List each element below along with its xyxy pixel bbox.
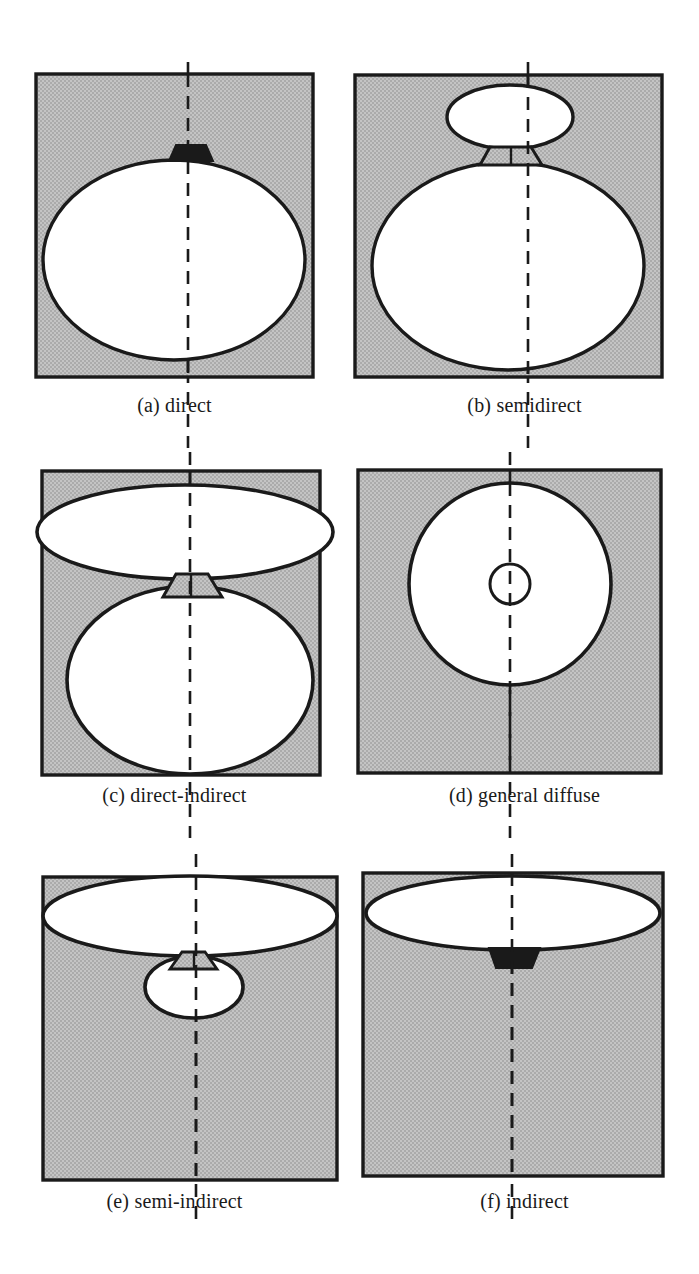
panel-d-caption: (d) general diffuse: [350, 784, 699, 807]
downward-light-ellipse: [372, 162, 644, 370]
upward-light-ellipse: [366, 876, 660, 950]
panel-direct: (a) direct: [0, 60, 349, 450]
luminaire-housing-black: [489, 948, 540, 968]
luminaire-distribution-figure: (a) direct (b) semidirect: [0, 0, 699, 1274]
panel-indirect: (f) indirect: [350, 840, 699, 1230]
panel-general-diffuse: (d) general diffuse: [350, 450, 699, 840]
panel-b-caption: (b) semidirect: [350, 394, 699, 417]
downward-light-ellipse: [43, 160, 305, 360]
panel-a-diagram: [0, 60, 349, 450]
panel-b-diagram: [350, 60, 699, 450]
luminaire-housing-black: [169, 145, 213, 161]
panel-c-caption: (c) direct-indirect: [0, 784, 349, 807]
panel-semidirect: (b) semidirect: [350, 60, 699, 450]
panel-direct-indirect: (c) direct-indirect: [0, 450, 349, 840]
panel-semi-indirect: (e) semi-indirect: [0, 840, 349, 1230]
panel-d-diagram: [350, 450, 699, 840]
panel-e-diagram: [0, 840, 349, 1230]
panel-f-caption: (f) indirect: [350, 1190, 699, 1213]
panel-f-diagram: [350, 840, 699, 1230]
upward-light-ellipse: [447, 85, 573, 149]
panel-c-diagram: [0, 450, 349, 840]
upward-light-ellipse: [37, 485, 333, 579]
upward-light-ellipse: [43, 876, 337, 956]
panel-a-caption: (a) direct: [0, 394, 349, 417]
panel-e-caption: (e) semi-indirect: [0, 1190, 349, 1213]
